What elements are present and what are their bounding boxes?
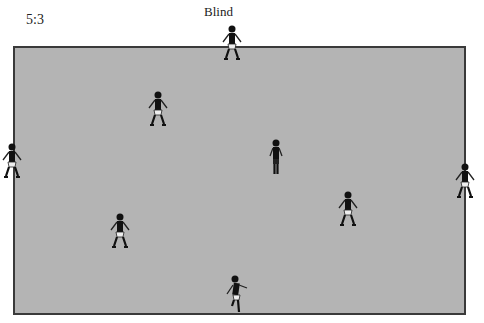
player-figure-center <box>261 138 291 178</box>
player-figure-upper-left <box>143 90 173 130</box>
player-figure-right-edge <box>450 162 480 202</box>
player-figure-lower-left <box>105 212 135 252</box>
player-icon <box>217 24 247 64</box>
player-figure-left-edge <box>0 142 27 182</box>
player-icon <box>143 90 173 130</box>
player-figure-bottom-edge <box>221 274 251 314</box>
player-icon <box>221 274 251 314</box>
player-icon <box>261 138 291 178</box>
player-figure-right-middle <box>333 190 363 230</box>
diagram-title: Blind <box>204 4 233 20</box>
player-icon <box>0 142 27 182</box>
player-icon <box>333 190 363 230</box>
player-icon <box>105 212 135 252</box>
player-figure-top-edge <box>217 24 247 64</box>
ratio-label: 5:3 <box>26 12 44 28</box>
player-icon <box>450 162 480 202</box>
